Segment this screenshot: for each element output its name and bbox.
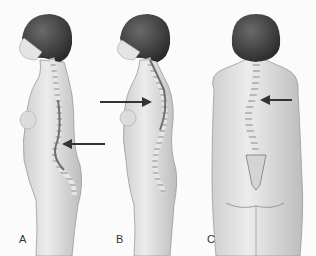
panel-label-a: A xyxy=(19,233,26,245)
figure-a xyxy=(20,14,106,256)
figure-b xyxy=(100,14,177,256)
panel-label-b: B xyxy=(116,233,123,245)
diagram-canvas xyxy=(0,0,316,256)
figure-c xyxy=(212,14,303,256)
spinal-curvature-diagram: A B C xyxy=(0,0,316,256)
panel-label-c: C xyxy=(207,233,215,245)
